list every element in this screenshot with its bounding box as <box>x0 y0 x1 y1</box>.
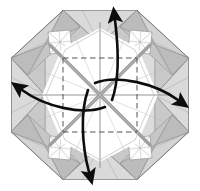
origami-figure <box>0 0 200 191</box>
origami-diagram-svg <box>0 0 200 191</box>
